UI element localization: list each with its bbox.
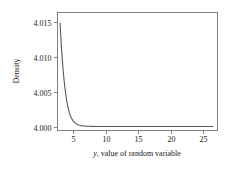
y-tick-label: 4.005	[34, 89, 52, 98]
density-chart-figure: 4.0004.0054.0104.015 510152025 Density y…	[0, 0, 231, 171]
x-tick-label: 5	[72, 135, 76, 144]
y-axis-label: Density	[12, 59, 21, 84]
x-tick-label: 15	[135, 135, 143, 144]
x-tick-label: 25	[200, 135, 208, 144]
x-axis-label-text: , value of random variable	[97, 149, 182, 158]
y-tick-label: 4.010	[34, 54, 52, 63]
y-tick-label: 4.000	[34, 124, 52, 133]
x-axis-label: y, value of random variable	[92, 149, 181, 158]
x-tick-label: 20	[168, 135, 176, 144]
x-tick-label: 10	[103, 135, 111, 144]
plot-canvas: 4.0004.0054.0104.015 510152025 Density y…	[0, 0, 231, 171]
y-tick-label: 4.015	[34, 19, 52, 28]
